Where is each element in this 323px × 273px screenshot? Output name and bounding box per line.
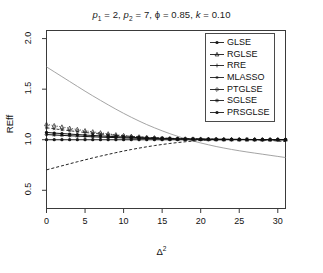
filled-circle-marker [153,136,156,139]
y-tick-label: 1.0 [23,128,33,150]
series-line [47,128,286,140]
filled-circle-marker [222,138,225,141]
filled-circle-marker [215,41,218,44]
x-tick-label: 25 [234,216,244,226]
filled-circle-marker [191,137,194,140]
series-ptglse [47,139,286,169]
filled-circle-marker [161,137,164,140]
filled-circle-marker [230,138,233,141]
filled-circle-marker [215,111,218,114]
legend-label: RRE [225,60,246,71]
filled-circle-marker [176,137,179,140]
legend-item-glse[interactable]: GLSE [209,37,270,49]
star-icon [209,95,225,106]
filled-circle-marker [68,132,71,135]
y-tick-label: 1.5 [23,77,33,99]
filled-circle-marker [168,137,171,140]
filled-circle-marker [68,138,71,141]
filled-circle-marker [60,132,63,135]
legend-item-rre[interactable]: RRE [209,60,270,72]
filled-circle-marker [53,138,56,141]
filled-circle-marker [130,136,133,139]
filled-circle-marker [91,134,94,137]
triangle-marker [60,125,64,129]
legend-label: GLSE [225,37,251,48]
filled-circle-marker [45,131,48,134]
legend-item-prsglse[interactable]: PRSGLSE [209,107,270,119]
x-tick-label: 15 [157,216,167,226]
filled-circle-marker [107,135,110,138]
legend-label: RGLSE [225,49,258,60]
diamond-icon [209,84,225,95]
legend-label: PTGLSE [225,84,263,95]
x-axis-label: Δ2 [0,245,323,257]
filled-circle-marker [207,138,210,141]
legend-item-rglse[interactable]: RGLSE [209,49,270,61]
filled-circle-marker [214,138,217,141]
legend-item-mlasso[interactable]: MLASSO [209,72,270,84]
legend-item-ptglse[interactable]: PTGLSE [209,83,270,95]
chart-legend: GLSERGLSERREMLASSOPTGLSESGLSEPRSGLSE [205,33,275,122]
filled-circle-marker [83,138,86,141]
y-tick-label: 2.0 [23,27,33,49]
x-tick-label: 30 [273,216,283,226]
filled-circle-icon [209,107,225,118]
filled-circle-marker [45,138,48,141]
filled-circle-marker [60,138,63,141]
chart-figure: p1 = 2, p2 = 7, ϕ = 0.85, k = 0.10 REff … [0,0,323,273]
filled-circle-marker [238,138,241,141]
legend-label: SGLSE [225,95,257,106]
filled-circle-marker [137,136,140,139]
legend-label: PRSGLSE [225,107,270,118]
filled-circle-marker [83,133,86,136]
legend-item-sglse[interactable]: SGLSE [209,95,270,107]
x-axis-label-exponent: 2 [163,245,167,252]
series-line [47,139,286,169]
x-tick-label: 20 [196,216,206,226]
filled-circle-marker [99,134,102,137]
filled-circle-marker [245,138,248,141]
filled-circle-marker [261,138,264,141]
y-axis-ticks [42,39,47,191]
filled-circle-marker [284,138,287,141]
triangle-marker [52,123,56,127]
x-tick-label: 10 [119,216,129,226]
filled-circle-marker [53,131,56,134]
filled-circle-marker [253,138,256,141]
y-tick-label: 0.5 [23,178,33,200]
filled-circle-marker [145,136,148,139]
filled-circle-icon [209,37,225,48]
filled-circle-marker [76,133,79,136]
triangle-icon [209,49,225,60]
x-tick-label: 5 [83,216,88,226]
triangle-marker [68,126,72,130]
x-axis-ticks [47,209,278,214]
filled-circle-marker [276,138,279,141]
x-tick-label: 0 [44,216,49,226]
legend-label: MLASSO [225,72,265,83]
filled-circle-marker [199,137,202,140]
filled-circle-marker [76,138,79,141]
asterisk-icon [209,72,225,83]
filled-circle-marker [122,135,125,138]
plus-icon [209,60,225,71]
plot-area [0,0,323,273]
filled-circle-marker [268,138,271,141]
y-axis-label: REff [4,115,15,133]
filled-circle-marker [184,137,187,140]
filled-circle-marker [114,135,117,138]
